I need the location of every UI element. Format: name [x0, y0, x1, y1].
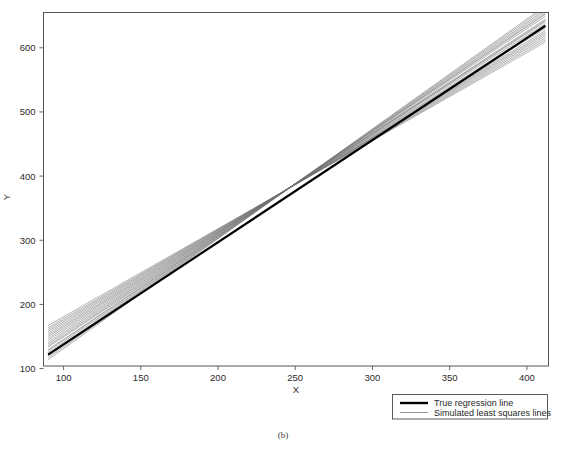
legend-label-simulated-lines: Simulated least squares lines — [434, 408, 552, 418]
x-tick-label-300: 300 — [365, 372, 381, 383]
y-tick-label-200: 200 — [20, 299, 36, 310]
chart-legend: True regression line Simulated least squ… — [393, 395, 552, 420]
x-tick-label-400: 400 — [519, 372, 535, 383]
figure-panel: 100150200250300350400 100200300400500600… — [0, 0, 565, 451]
x-tick-label-250: 250 — [287, 372, 303, 383]
y-tick-label-400: 400 — [20, 171, 36, 182]
x-tick-label-350: 350 — [442, 372, 458, 383]
legend-label-true-line: True regression line — [434, 398, 513, 408]
figure-caption: (b) — [278, 430, 289, 440]
y-tick-label-500: 500 — [20, 106, 36, 117]
y-axis-title: Y — [1, 193, 12, 200]
regression-simulation-chart: 100150200250300350400 100200300400500600… — [0, 0, 565, 451]
x-tick-label-200: 200 — [210, 372, 226, 383]
x-tick-label-150: 150 — [133, 372, 149, 383]
y-tick-label-100: 100 — [20, 363, 36, 374]
y-tick-label-600: 600 — [20, 42, 36, 53]
y-tick-label-300: 300 — [20, 235, 36, 246]
x-tick-label-100: 100 — [56, 372, 72, 383]
x-axis-title: X — [293, 384, 300, 395]
